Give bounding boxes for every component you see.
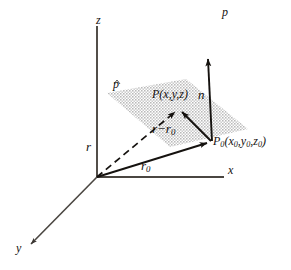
vector-label-diff-base: r−r — [152, 121, 171, 136]
point-p0-coords-y: ,y — [238, 134, 246, 148]
point-p0-sub-z: 0 — [258, 140, 262, 149]
axis-y — [31, 177, 97, 244]
point-p0-sub: 0 — [220, 140, 224, 149]
vector-label-diff-sub: 0 — [171, 127, 175, 137]
point-p0-sub-x: 0 — [234, 140, 238, 149]
axis-label-x: x — [228, 164, 233, 176]
vector-label-r: r — [86, 140, 91, 153]
point-p0-coords-z: ,z — [250, 134, 258, 148]
axis-label-z: z — [96, 14, 101, 26]
plane-label: p — [113, 78, 119, 90]
point-p0-sub-y: 0 — [246, 140, 250, 149]
plane-label-top: p — [222, 6, 228, 18]
point-label-p0: P0(x0,y0,z0) — [213, 135, 266, 147]
vector-r0 — [97, 143, 207, 177]
point-label-p: P(x,y,z) — [152, 88, 188, 100]
vector-label-r0-sub: 0 — [146, 164, 150, 174]
axis-label-y: y — [16, 242, 21, 254]
vector-label-n: n — [198, 88, 205, 101]
point-p0-coords-open: (x — [224, 134, 233, 148]
point-p0-coords-close: ) — [262, 134, 266, 148]
vector-label-r0: r0 — [141, 159, 150, 172]
point-p-coords: (x,y,z) — [159, 87, 188, 101]
vector-label-r-minus-r0: r−r0 — [152, 122, 175, 135]
vector-plane-figure: z x y p p n r r0 r−r0 P(x,y,z) P0(x0,y0,… — [0, 0, 291, 270]
